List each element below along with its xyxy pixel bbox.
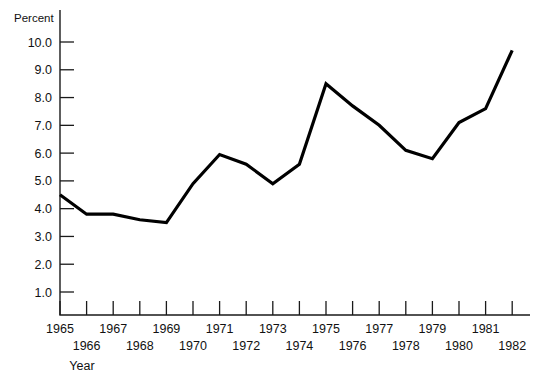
x-tick-label: 1967 [99,322,127,336]
y-tick-label: 1.0 [35,286,52,300]
x-tick-label: 1972 [232,339,260,353]
y-tick-label: 9.0 [35,63,52,77]
x-tick-label: 1982 [498,339,526,353]
x-tick-label: 1976 [339,339,367,353]
y-tick-label: 6.0 [35,147,52,161]
y-tick-label: 7.0 [35,119,52,133]
line-chart: Percent 1.02.03.04.05.06.07.08.09.010.0 … [0,0,540,382]
chart-container: Percent 1.02.03.04.05.06.07.08.09.010.0 … [0,0,540,382]
y-tick-label: 5.0 [35,174,52,188]
x-tick-label: 1969 [152,322,180,336]
x-tick-label: 1980 [445,339,473,353]
y-tick-label: 10.0 [28,36,52,50]
x-tick-label: 1978 [392,339,420,353]
x-axis-title: Year [69,359,94,373]
x-tick-label: 1966 [73,339,101,353]
x-tick-label: 1977 [365,322,393,336]
x-tick-label: 1968 [126,339,154,353]
y-axis-title: Percent [14,12,54,24]
y-tick-label: 3.0 [35,230,52,244]
x-tick-label: 1974 [285,339,313,353]
y-tick-label: 2.0 [35,258,52,272]
y-tick-label: 4.0 [35,202,52,216]
x-tick-label: 1970 [179,339,207,353]
y-tick-label: 8.0 [35,91,52,105]
x-tick-label: 1981 [472,322,500,336]
x-tick-label: 1973 [259,322,287,336]
x-tick-label: 1965 [46,322,74,336]
x-tick-label: 1975 [312,322,340,336]
x-tick-label: 1979 [418,322,446,336]
x-tick-label: 1971 [206,322,234,336]
